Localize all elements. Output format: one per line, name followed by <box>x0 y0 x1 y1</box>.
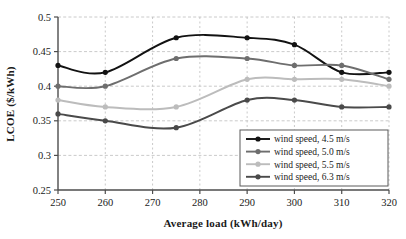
series-line <box>58 77 389 109</box>
data-point-marker <box>386 84 391 89</box>
x-tick-label: 300 <box>287 197 303 208</box>
data-point-marker <box>339 70 344 75</box>
x-axis-title: Average load (kWh/day) <box>163 217 282 230</box>
legend-marker-swatch <box>255 136 260 141</box>
series-line <box>58 35 389 74</box>
data-point-marker <box>339 63 344 68</box>
data-point-marker <box>386 77 391 82</box>
legend-item-label: wind speed, 4.5 m/s <box>274 134 350 144</box>
data-point-marker <box>103 104 108 109</box>
legend-marker-swatch <box>255 149 260 154</box>
data-point-marker <box>103 70 108 75</box>
data-point-marker <box>103 84 108 89</box>
x-tick-label: 250 <box>50 197 66 208</box>
data-point-marker <box>174 125 179 130</box>
data-point-marker <box>55 84 60 89</box>
data-point-marker <box>386 70 391 75</box>
x-tick-label: 270 <box>145 197 161 208</box>
x-tick-label: 260 <box>97 197 113 208</box>
series-line <box>58 98 389 129</box>
y-tick-label: 0.35 <box>33 115 51 126</box>
data-point-marker <box>339 104 344 109</box>
legend-item-label: wind speed, 6.3 m/s <box>274 172 350 182</box>
legend-item-label: wind speed, 5.0 m/s <box>274 147 350 157</box>
data-point-marker <box>292 97 297 102</box>
y-tick-label: 0.4 <box>38 81 52 92</box>
x-tick-label: 280 <box>192 197 208 208</box>
x-tick-label: 290 <box>239 197 255 208</box>
line-chart: 0.250.30.350.40.450.5 250260270280290300… <box>0 0 406 239</box>
data-point-marker <box>55 63 60 68</box>
y-tick-label: 0.25 <box>33 185 51 196</box>
y-axis-tick-labels: 0.250.30.350.40.450.5 <box>33 12 52 196</box>
data-point-marker <box>245 56 250 61</box>
data-point-marker <box>55 111 60 116</box>
chart-figure: 0.250.30.350.40.450.5 250260270280290300… <box>0 0 406 239</box>
data-point-marker <box>245 77 250 82</box>
y-tick-label: 0.5 <box>38 12 51 23</box>
data-point-marker <box>103 118 108 123</box>
y-axis-title: LCOE ($/kWh) <box>4 66 17 142</box>
data-point-marker <box>292 77 297 82</box>
series-wind-speed-4.5-m-s <box>55 35 391 75</box>
legend: wind speed, 4.5 m/swind speed, 5.0 m/swi… <box>240 130 388 186</box>
data-point-marker <box>174 104 179 109</box>
y-tick-label: 0.45 <box>33 46 51 57</box>
x-tick-label: 320 <box>381 197 397 208</box>
data-point-marker <box>245 97 250 102</box>
data-point-marker <box>386 104 391 109</box>
data-series <box>55 35 391 130</box>
data-point-marker <box>245 35 250 40</box>
y-tick-label: 0.3 <box>38 150 51 161</box>
data-point-marker <box>174 56 179 61</box>
data-point-marker <box>339 77 344 82</box>
x-tick-label: 310 <box>334 197 350 208</box>
legend-item-label: wind speed, 5.5 m/s <box>274 160 350 170</box>
data-point-marker <box>55 97 60 102</box>
data-point-marker <box>292 42 297 47</box>
legend-marker-swatch <box>255 162 260 167</box>
legend-marker-swatch <box>255 174 260 179</box>
x-axis-tick-labels: 250260270280290300310320 <box>50 197 397 208</box>
data-point-marker <box>174 35 179 40</box>
series-wind-speed-6.3-m-s <box>55 97 391 130</box>
data-point-marker <box>292 63 297 68</box>
